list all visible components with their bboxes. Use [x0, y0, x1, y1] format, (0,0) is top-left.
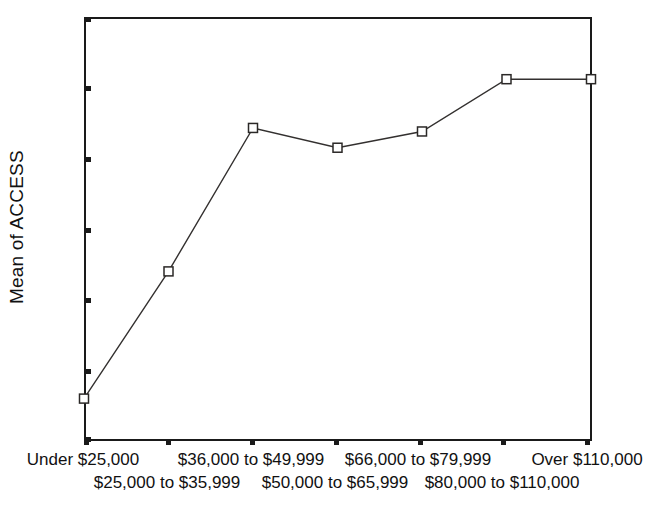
- x-axis-label-50000-65999: $50,000 to $65,999: [262, 473, 409, 492]
- y-tick-mark-0.8: [84, 157, 91, 162]
- y-tick-mark-0.5: [84, 369, 91, 374]
- x-axis-label-under-25000: Under $25,000: [27, 450, 139, 469]
- plot-right-border: [590, 17, 592, 441]
- x-axis-label-over-110000: Over $110,000: [531, 450, 642, 469]
- x-axis-label-25000-35999: $25,000 to $35,999: [94, 473, 241, 492]
- x-axis-label-66000-79999: $66,000 to $79,999: [345, 450, 492, 469]
- x-axis-label-36000-49999: $36,000 to $49,999: [178, 450, 325, 469]
- y-tick-mark-1.0: [84, 17, 91, 22]
- x-axis-label-80000-110000: $80,000 to $110,000: [425, 473, 580, 492]
- x-tick-mark-3: [250, 439, 255, 445]
- y-axis-title: Mean of ACCESS: [0, 114, 34, 304]
- line-chart: Mean of ACCESS 1.0 .9 .8 .7 .6 .5 .4 Und…: [0, 0, 653, 527]
- y-tick-mark-0.7: [84, 228, 91, 233]
- x-tick-mark-4: [334, 439, 339, 445]
- plot-top-border: [84, 17, 592, 19]
- x-tick-mark-5: [418, 439, 423, 445]
- y-tick-mark-0.6: [84, 298, 91, 303]
- x-tick-mark-2: [166, 439, 171, 445]
- x-tick-mark-6: [501, 439, 506, 445]
- y-tick-mark-0.9: [84, 86, 91, 91]
- x-tick-mark-1: [84, 439, 89, 445]
- x-tick-mark-7: [585, 439, 590, 445]
- plot-area: [84, 17, 592, 441]
